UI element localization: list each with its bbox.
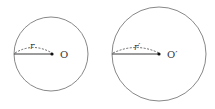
center-label: O <box>60 49 68 60</box>
two-circles-diagram: r O r′ O′ <box>0 0 215 109</box>
radius-label: r <box>30 41 35 51</box>
circle-o: r O <box>14 17 88 91</box>
center-point <box>50 52 53 55</box>
circle-o-prime: r′ O′ <box>112 7 206 101</box>
radius-label: r′ <box>134 42 140 52</box>
center-label: O′ <box>167 49 178 60</box>
center-point <box>157 52 160 55</box>
